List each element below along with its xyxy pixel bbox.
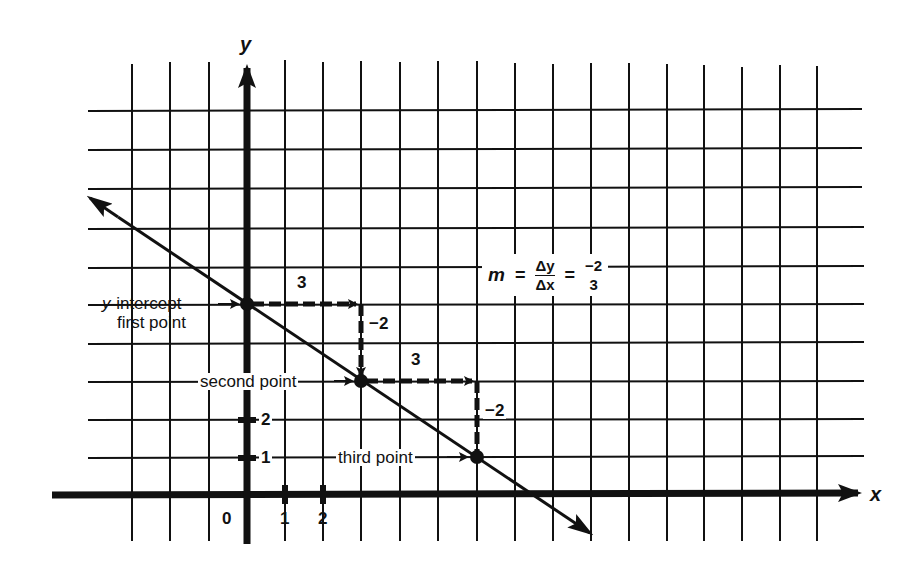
formula-equals-1: =	[515, 265, 526, 286]
formula-delta-fraction: Δy Δx	[535, 258, 554, 293]
formula-equals-2: =	[565, 265, 576, 286]
formula-m: m	[488, 264, 505, 286]
y-intercept-label: y-intercept	[100, 295, 183, 312]
rise-label-2: −2	[483, 402, 506, 419]
run-label-1: 3	[295, 274, 308, 291]
y-axis-label: y	[238, 34, 253, 54]
x-axis-label: x	[868, 484, 883, 504]
origin-label: 0	[220, 510, 233, 527]
formula-dx: Δx	[535, 277, 554, 293]
grid-lines	[88, 60, 864, 541]
formula-value-fraction: −2 3	[585, 258, 602, 293]
run-label-2: 3	[409, 351, 422, 368]
point-second	[354, 374, 368, 388]
third-point-label: third point	[336, 449, 415, 466]
rise-label-1: −2	[367, 315, 390, 332]
y-tick-label-2: 2	[259, 411, 272, 428]
point-y-intercept	[240, 297, 254, 311]
y-intercept-prefix: y	[102, 294, 111, 313]
x-tick-label-2: 2	[316, 510, 329, 527]
first-point-label: first point	[115, 314, 188, 331]
y-tick-label-1: 1	[259, 449, 272, 466]
formula-numerator: −2	[585, 258, 602, 274]
formula-dy: Δy	[535, 258, 554, 274]
y-intercept-suffix: -intercept	[111, 294, 182, 313]
second-point-label: second point	[198, 373, 298, 390]
coordinate-grid-diagram	[0, 0, 918, 570]
x-axis	[52, 493, 858, 495]
slope-formula: m = Δy Δx = −2 3	[482, 254, 608, 296]
x-tick-label-1: 1	[278, 510, 291, 527]
sloped-line-left-arrow	[90, 198, 118, 217]
formula-denominator: 3	[589, 277, 597, 293]
point-third	[470, 450, 484, 464]
